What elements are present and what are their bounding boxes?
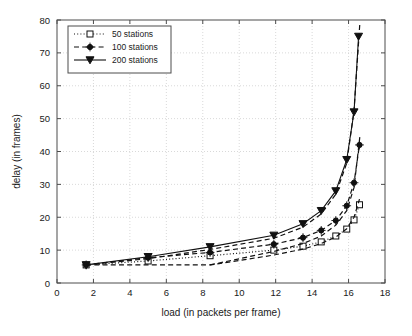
x-tick-label: 4 — [127, 287, 132, 298]
x-tick-label: 12 — [270, 287, 281, 298]
series-path — [86, 205, 359, 265]
chart-canvas: 02468101214161801020304050607080 load (i… — [0, 0, 412, 336]
y-tick-label: 30 — [39, 179, 50, 190]
chart-legend: 50 stations100 stations200 stations — [68, 26, 171, 73]
x-tick-label: 14 — [307, 287, 318, 298]
y-tick-label: 40 — [39, 146, 50, 157]
y-tick-label: 80 — [39, 15, 50, 26]
y-tick-label: 50 — [39, 113, 50, 124]
x-tick-label: 0 — [54, 287, 59, 298]
marker-square-open-icon — [318, 239, 324, 245]
legend-label: 200 stations — [112, 55, 158, 65]
y-tick-label: 70 — [39, 47, 50, 58]
x-tick-label: 18 — [380, 287, 391, 298]
marker-triangle-down-filled-icon — [299, 221, 307, 228]
y-tick-label: 10 — [39, 245, 50, 256]
y-tick-label: 60 — [39, 80, 50, 91]
marker-triangle-down-filled-icon — [332, 188, 340, 195]
y-tick-label: 20 — [39, 212, 50, 223]
y-tick-label: 0 — [45, 278, 50, 289]
x-tick-label: 2 — [91, 287, 96, 298]
x-tick-label: 16 — [343, 287, 354, 298]
legend-label: 100 stations — [112, 42, 158, 52]
legend-label: 50 stations — [112, 29, 153, 39]
y-axis-title: delay (in frames) — [11, 114, 22, 188]
series-path — [86, 145, 359, 265]
marker-square-open-icon — [87, 31, 93, 37]
chart-figure: 02468101214161801020304050607080 load (i… — [0, 0, 412, 336]
x-tick-label: 8 — [200, 287, 205, 298]
x-axis-title: load (in packets per frame) — [162, 307, 281, 318]
x-tick-label: 10 — [234, 287, 245, 298]
x-tick-label: 6 — [164, 287, 169, 298]
